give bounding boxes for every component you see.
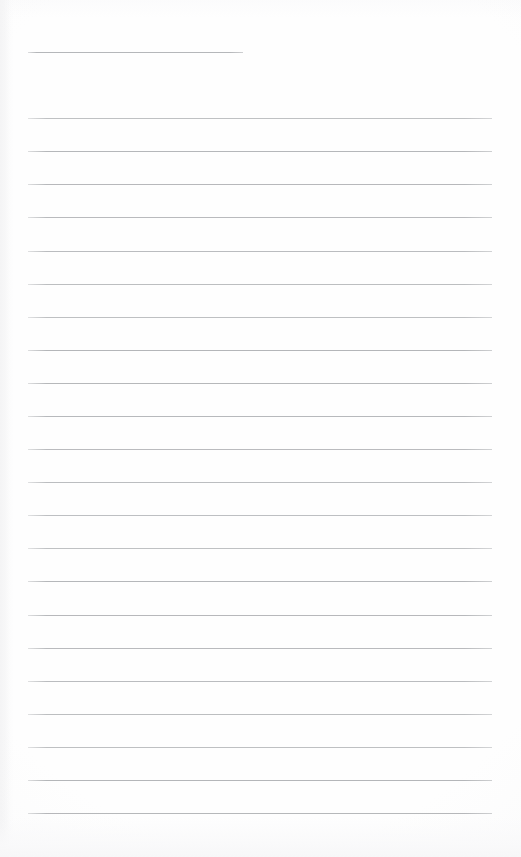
body-rule [28,416,492,417]
body-rule [28,350,492,351]
body-rule [28,813,492,814]
title-rule [28,52,243,53]
body-rule [28,581,492,582]
body-rule [28,747,492,748]
body-rule [28,317,492,318]
body-rule [28,648,492,649]
body-rule [28,780,492,781]
body-rule [28,482,492,483]
bottom-scan-artifact [0,817,521,857]
body-rule [28,151,492,152]
body-rule [28,615,492,616]
body-rule [28,714,492,715]
body-rule [28,184,492,185]
body-rule [28,449,492,450]
body-rule [28,217,492,218]
body-rule [28,681,492,682]
paper-texture [0,0,521,857]
body-rule [28,251,492,252]
body-rule [28,383,492,384]
body-rule [28,118,492,119]
body-rule [28,284,492,285]
body-rule [28,515,492,516]
body-rule [28,548,492,549]
scanned-ruled-page [0,0,521,857]
left-edge-scan-artifact [0,0,10,857]
